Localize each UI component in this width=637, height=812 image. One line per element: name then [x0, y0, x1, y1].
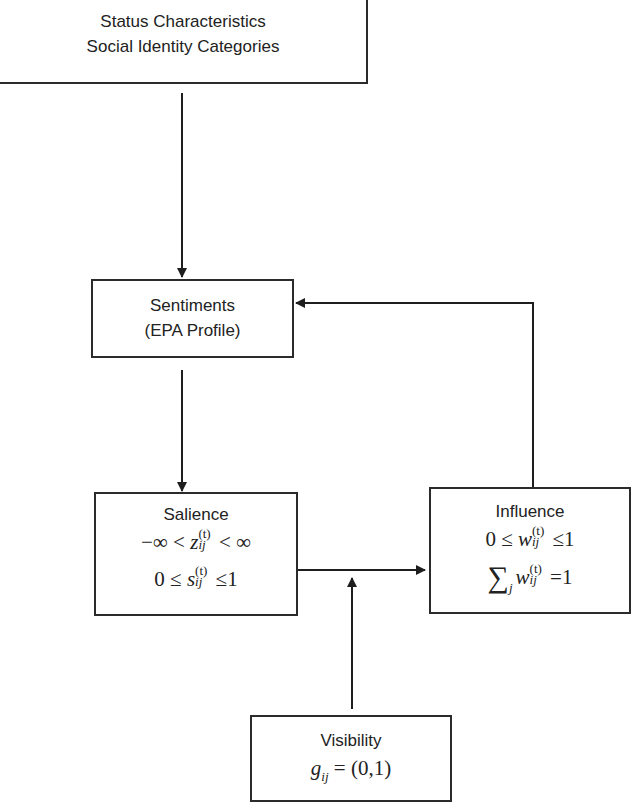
eq-var: w: [516, 565, 530, 589]
node-salience-title: Salience: [96, 502, 296, 527]
sum-index: j: [509, 580, 513, 595]
node-influence: Influence 0 ≤ w(t)ij ≤1 ∑jw(t)ij =1: [429, 487, 631, 614]
eq-var: s: [187, 567, 195, 591]
node-status-line-1: Status Characteristics: [0, 9, 366, 34]
visibility-equation-g: gij = (0,1): [252, 753, 450, 792]
eq-left: 0 ≤: [485, 527, 518, 551]
eq-right: ≤1: [547, 527, 574, 551]
node-salience: Salience −∞ < z(t)ij < ∞ 0 ≤ s(t)ij ≤1: [94, 492, 298, 616]
influence-equation-w: 0 ≤ w(t)ij ≤1: [431, 524, 629, 555]
eq-var: g: [311, 756, 322, 780]
node-sentiments: Sentiments (EPA Profile): [91, 279, 294, 358]
eq-right: < ∞: [214, 530, 251, 554]
arrow-influence-to-sentiments: [296, 303, 533, 487]
eq-right: =1: [545, 565, 573, 589]
connector-layer: [0, 0, 637, 812]
node-sentiments-title: Sentiments: [93, 293, 292, 318]
eq-left: −∞ <: [141, 530, 190, 554]
eq-right: ≤1: [210, 567, 237, 591]
eq-left: 0 ≤: [154, 567, 187, 591]
eq-var: z: [190, 530, 198, 554]
eq-sub: ij: [321, 769, 328, 784]
node-visibility: Visibility gij = (0,1): [250, 715, 452, 802]
node-status-line-2: Social Identity Categories: [0, 34, 366, 59]
eq-var: w: [518, 527, 532, 551]
node-visibility-title: Visibility: [252, 728, 450, 753]
sigma-symbol: ∑: [488, 560, 509, 593]
eq-right: = (0,1): [329, 756, 392, 780]
influence-equation-sum: ∑jw(t)ij =1: [431, 561, 629, 603]
node-influence-title: Influence: [431, 499, 629, 524]
node-sentiments-subtitle: (EPA Profile): [93, 318, 292, 343]
salience-equation-s: 0 ≤ s(t)ij ≤1: [96, 564, 296, 595]
node-status-characteristics: Status Characteristics Social Identity C…: [0, 0, 368, 84]
diagram-canvas: Status Characteristics Social Identity C…: [0, 0, 637, 812]
salience-equation-z: −∞ < z(t)ij < ∞: [96, 527, 296, 558]
